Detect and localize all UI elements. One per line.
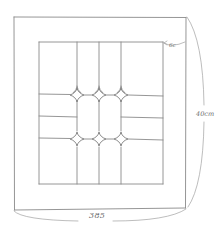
height-dimension-label: 40cm <box>196 111 214 118</box>
diamond-top-center <box>92 88 106 102</box>
height-dimension-arc <box>187 17 204 105</box>
diamond-top-right <box>114 88 128 102</box>
outer-frame <box>14 17 186 210</box>
border-dimension-label: 6c <box>169 43 176 49</box>
width-dimension-label: 385 <box>89 212 105 220</box>
glass-panel-sketch <box>0 0 222 239</box>
inner-panel-border <box>39 42 163 184</box>
diamond-bottom-left <box>70 132 84 146</box>
diamond-bottom-center <box>92 132 106 146</box>
diamond-bottom-right <box>114 132 128 146</box>
vertical-leads <box>73 42 125 184</box>
width-dimension-arc <box>14 211 78 221</box>
horizontal-leads <box>39 94 163 140</box>
diamond-top-left <box>70 88 84 102</box>
